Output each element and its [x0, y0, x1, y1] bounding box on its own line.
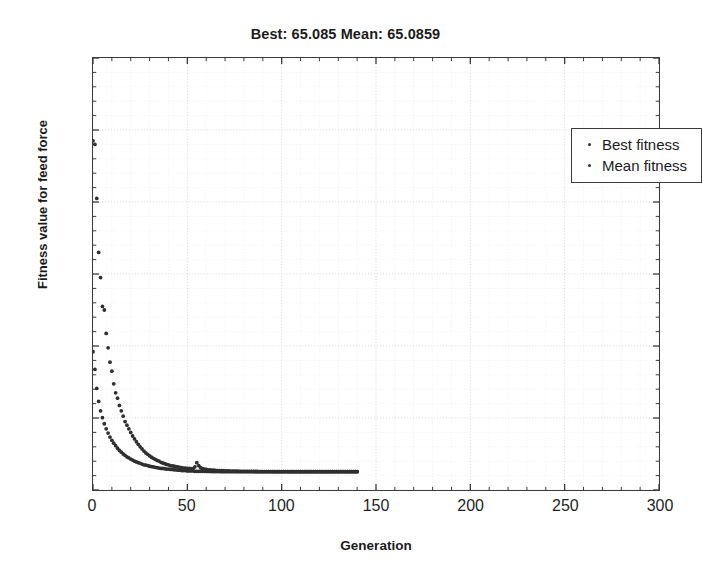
- legend-label-mean-fitness: Mean fitness: [598, 157, 687, 174]
- legend-label-best-fitness: Best fitness: [598, 136, 680, 153]
- legend-item-best-fitness[interactable]: Best fitness: [580, 134, 687, 155]
- legend[interactable]: Best fitness Mean fitness: [571, 128, 702, 183]
- plot-area: Best fitness Mean fitness: [92, 57, 660, 491]
- y-axis-title: Fitness value for feed force: [35, 0, 50, 415]
- data-points: [93, 58, 659, 490]
- gridlines: [93, 58, 659, 490]
- dot-marker-icon: [580, 143, 598, 146]
- series-best-fitness: [93, 350, 359, 474]
- chart-title: Best: 65.085 Mean: 65.0859: [0, 26, 691, 42]
- x-axis-title: Generation: [92, 538, 660, 553]
- legend-item-mean-fitness[interactable]: Mean fitness: [580, 155, 687, 176]
- axis-ticks: [93, 58, 659, 490]
- series-mean-fitness: [93, 139, 359, 474]
- dot-marker-icon: [580, 164, 598, 167]
